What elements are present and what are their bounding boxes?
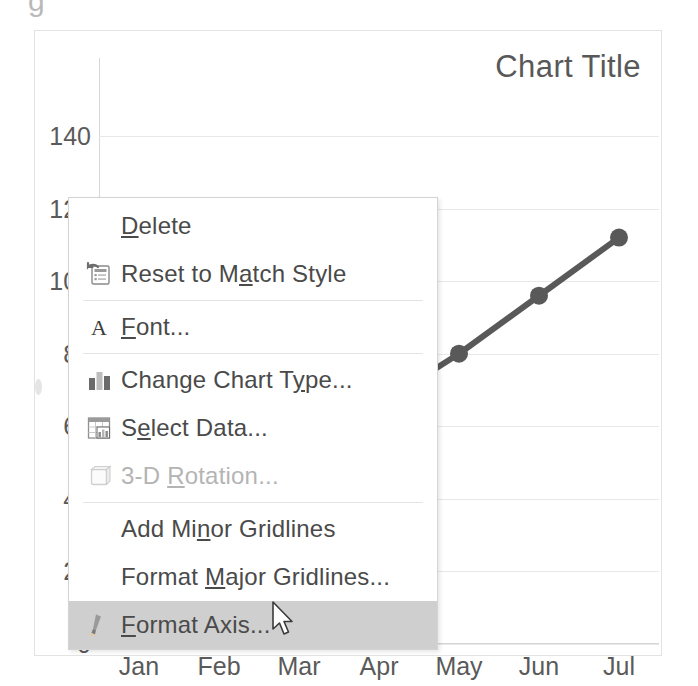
menu-item-delete[interactable]: Delete xyxy=(69,202,437,250)
x-axis-tick-label: Jun xyxy=(519,652,559,681)
menu-item-select-data[interactable]: Select Data... xyxy=(69,404,437,452)
menu-item-format-axis[interactable]: Format Axis... xyxy=(69,601,437,649)
menu-item-label: Select Data... xyxy=(121,414,268,442)
menu-item-icon-placeholder xyxy=(77,509,121,549)
menu-item-icon-placeholder xyxy=(77,557,121,597)
data-point-marker[interactable] xyxy=(610,229,628,247)
menu-item-change-chart-type[interactable]: Change Chart Type... xyxy=(69,356,437,404)
menu-item-font[interactable]: AFont... xyxy=(69,303,437,351)
x-axis-tick-label: Jul xyxy=(603,652,635,681)
x-axis-tick-label: Apr xyxy=(360,652,399,681)
chart-context-menu[interactable]: DeleteReset to Match StyleAFont...Change… xyxy=(68,197,438,650)
x-axis-tick-label: Jan xyxy=(119,652,159,681)
data-point-marker[interactable] xyxy=(450,345,468,363)
clipped-glyph-artifact: g xyxy=(28,0,45,18)
format-axis-icon xyxy=(77,605,121,645)
x-axis-tick-label: Mar xyxy=(277,652,320,681)
data-point-marker[interactable] xyxy=(530,287,548,305)
reset-style-icon xyxy=(77,254,121,294)
menu-item-label: Delete xyxy=(121,212,192,240)
menu-item-3-d-rotation: 3-D Rotation... xyxy=(69,452,437,500)
screenshot-root: g Chart Title 140120100806040200 JanFebM… xyxy=(0,0,698,686)
select-data-icon xyxy=(77,408,121,448)
menu-separator xyxy=(83,300,423,301)
3d-rotation-icon xyxy=(77,456,121,496)
menu-item-icon-placeholder xyxy=(77,206,121,246)
menu-item-label: 3-D Rotation... xyxy=(121,462,279,490)
x-axis-tick-label: Feb xyxy=(197,652,240,681)
menu-item-label: Format Axis... xyxy=(121,611,271,639)
axis-selection-handle[interactable] xyxy=(35,379,42,395)
menu-item-label: Font... xyxy=(121,313,190,341)
svg-text:A: A xyxy=(91,315,107,340)
menu-separator xyxy=(83,502,423,503)
menu-item-format-major-gridlines[interactable]: Format Major Gridlines... xyxy=(69,553,437,601)
x-axis-tick-label: May xyxy=(435,652,482,681)
chart-title[interactable]: Chart Title xyxy=(495,49,641,85)
menu-item-add-minor-gridlines[interactable]: Add Minor Gridlines xyxy=(69,505,437,553)
menu-item-label: Add Minor Gridlines xyxy=(121,515,336,543)
menu-item-reset-to-match-style[interactable]: Reset to Match Style xyxy=(69,250,437,298)
menu-separator xyxy=(83,353,423,354)
menu-item-label: Format Major Gridlines... xyxy=(121,563,390,591)
menu-item-label: Change Chart Type... xyxy=(121,366,353,394)
menu-item-label: Reset to Match Style xyxy=(121,260,346,288)
y-axis-tick-label: 140 xyxy=(49,122,91,151)
font-icon: A xyxy=(77,307,121,347)
change-chart-type-icon xyxy=(77,360,121,400)
